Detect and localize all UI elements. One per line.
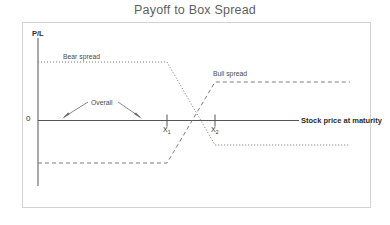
- overall-arrow-right: [118, 102, 142, 119]
- tick-label-x2-subscript: 2: [216, 129, 219, 135]
- y-axis-label: P/L: [32, 29, 44, 38]
- x-axis-label: Stock price at maturity: [301, 116, 382, 125]
- series-line-bear-spread: [38, 62, 350, 145]
- tick-label-x1-subscript: 1: [168, 129, 171, 135]
- tick-label-x2: X2: [211, 126, 218, 135]
- figure-payoff-to-box-spread: Payoff to Box Spread P/L 0 Stock price a…: [0, 0, 390, 225]
- tick-label-x1: X1: [163, 126, 170, 135]
- overall-arrow-left: [62, 102, 88, 119]
- annotation-bear-spread: Bear spread: [63, 53, 100, 60]
- plot-area: [0, 0, 390, 225]
- annotation-bull-spread: Bull spread: [213, 70, 247, 77]
- origin-label: 0: [26, 114, 30, 123]
- annotation-overall: Overall: [91, 99, 113, 106]
